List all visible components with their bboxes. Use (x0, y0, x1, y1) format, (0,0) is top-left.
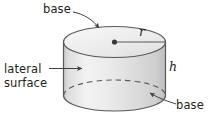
radius-label: r (139, 25, 145, 39)
lateral-surface-label-line1: lateral (4, 63, 47, 77)
base-top-label: base (43, 3, 71, 17)
lateral-surface-label: lateral surface (4, 63, 47, 90)
cylinder-diagram: base lateral surface base r h (0, 0, 211, 120)
base-top-leader-line (73, 12, 99, 28)
height-label: h (169, 60, 177, 74)
center-point-dot (112, 39, 117, 44)
base-bottom-label: base (176, 99, 204, 113)
lateral-surface-label-line2: surface (4, 77, 47, 91)
